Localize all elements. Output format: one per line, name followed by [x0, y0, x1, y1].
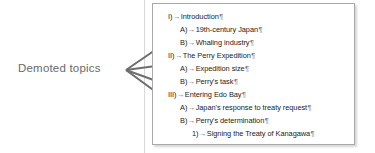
- outline-row-text: Treaty provisions: [207, 142, 262, 145]
- paragraph-mark-icon: ¶: [264, 116, 268, 125]
- outline-list[interactable]: I)→Introduction¶A)→19th-century Japan¶B)…: [153, 10, 354, 145]
- tab-mark-icon: →: [187, 116, 195, 125]
- outline-row-text: Introduction: [181, 12, 219, 21]
- outline-row-text: The Perry Expedition: [183, 51, 251, 60]
- outline-row[interactable]: B)→Whaling industry¶: [153, 36, 354, 49]
- outline-row[interactable]: I)→Introduction¶: [153, 10, 354, 23]
- outline-row[interactable]: A)→Expedition size¶: [153, 62, 354, 75]
- tab-mark-icon: →: [187, 77, 195, 86]
- outline-row-text: Perry's task: [196, 77, 234, 86]
- outline-row-text: Expedition size: [196, 64, 245, 73]
- paragraph-mark-icon: ¶: [251, 51, 255, 60]
- outline-row[interactable]: II)→The Perry Expedition¶: [153, 49, 354, 62]
- tab-mark-icon: →: [198, 142, 206, 145]
- outline-row[interactable]: III)→Entering Edo Bay¶: [153, 88, 354, 101]
- outline-row[interactable]: A)→19th-century Japan¶: [153, 23, 354, 36]
- tab-mark-icon: →: [187, 25, 195, 34]
- paragraph-mark-icon: ¶: [310, 129, 314, 138]
- paragraph-mark-icon: ¶: [307, 103, 311, 112]
- tab-mark-icon: →: [187, 38, 195, 47]
- tab-mark-icon: →: [198, 129, 206, 138]
- outline-row[interactable]: 1)→Signing the Treaty of Kanagawa¶: [153, 127, 354, 140]
- paragraph-mark-icon: ¶: [258, 25, 262, 34]
- figure-root: Demoted topics I)→Introduction¶A)→19th-c…: [0, 0, 375, 153]
- outline-row-text: 19th-century Japan: [196, 25, 258, 34]
- paragraph-mark-icon: ¶: [249, 38, 253, 47]
- tab-mark-icon: →: [187, 64, 195, 73]
- tab-mark-icon: →: [174, 51, 182, 60]
- outline-document-box: I)→Introduction¶A)→19th-century Japan¶B)…: [152, 3, 355, 145]
- outline-row-text: Signing the Treaty of Kanagawa: [207, 129, 310, 138]
- page-edge-rule: [144, 0, 145, 153]
- outline-row-text: Whaling industry: [196, 38, 250, 47]
- annotation-label-demoted-topics: Demoted topics: [18, 61, 130, 75]
- tab-mark-icon: →: [187, 103, 195, 112]
- paragraph-mark-icon: ¶: [219, 12, 223, 21]
- outline-row[interactable]: 2)→Treaty provisions¶: [153, 140, 354, 145]
- outline-row[interactable]: B)→Perry's task¶: [153, 75, 354, 88]
- tab-mark-icon: →: [172, 12, 180, 21]
- outline-row[interactable]: B)→Perry's determination¶: [153, 114, 354, 127]
- paragraph-mark-icon: ¶: [233, 77, 237, 86]
- paragraph-mark-icon: ¶: [242, 90, 246, 99]
- paragraph-mark-icon: ¶: [262, 142, 266, 145]
- tab-mark-icon: →: [176, 90, 184, 99]
- outline-row-text: Entering Edo Bay: [185, 90, 242, 99]
- outline-row[interactable]: A)→Japan's response to treaty request¶: [153, 101, 354, 114]
- outline-row-text: Japan's response to treaty request: [196, 103, 307, 112]
- paragraph-mark-icon: ¶: [245, 64, 249, 73]
- outline-row-text: Perry's determination: [196, 116, 265, 125]
